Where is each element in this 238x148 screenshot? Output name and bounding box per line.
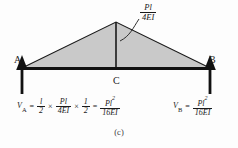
node-label-c: C <box>113 76 120 86</box>
reaction-right-result-den: 16EI <box>193 109 213 117</box>
reaction-left-equation: VA = l 2 × Pl 4EI × 1 2 = Pl2 16EI <box>17 97 120 117</box>
node-label-a: A <box>14 55 21 65</box>
moment-denominator: 4EI <box>140 13 156 22</box>
reaction-left-term1-den: 2 <box>37 107 45 115</box>
reaction-right-subscript: B <box>178 106 182 113</box>
reaction-left-equals: = <box>29 103 36 111</box>
reaction-left-term2: Pl 4EI <box>56 98 72 115</box>
reaction-left-result: Pl2 16EI <box>100 97 120 117</box>
reaction-left-subscript: A <box>22 106 27 113</box>
reaction-left-symbol: VA <box>17 102 27 112</box>
reaction-left-times1: × <box>47 103 54 111</box>
reaction-left-result-den: 16EI <box>100 109 120 117</box>
moment-value-label: Pl 4EI <box>140 3 156 21</box>
reaction-left-result-base: Pl <box>105 99 112 108</box>
reaction-left-row: VA = l 2 × Pl 4EI × 1 2 = Pl2 16EI <box>17 97 120 117</box>
reaction-left-result-exponent: 2 <box>112 95 115 101</box>
reaction-right-result-exponent: 2 <box>205 95 208 101</box>
diagram-canvas <box>0 0 238 148</box>
reaction-right-symbol: VB <box>173 102 182 112</box>
reaction-left-term1: l 2 <box>37 98 45 115</box>
reaction-left-term2-den: 4EI <box>56 107 72 115</box>
node-label-b: B <box>209 55 216 65</box>
reaction-right-result: Pl2 16EI <box>193 97 213 117</box>
reaction-right-result-base: Pl <box>197 99 204 108</box>
reaction-left-equals2: = <box>92 103 99 111</box>
reaction-left-term3: 1 2 <box>82 98 90 115</box>
beam-moment-diagram-figure: A B C Pl 4EI VA = l 2 × Pl 4EI × 1 2 <box>0 0 238 148</box>
reaction-left-times2: × <box>73 103 80 111</box>
reaction-right-equation: VB = Pl2 16EI <box>173 97 212 117</box>
reaction-right-equals: = <box>184 103 191 111</box>
figure-caption: (c) <box>0 128 238 137</box>
moment-fraction: Pl 4EI <box>140 3 156 21</box>
reaction-right-row: VB = Pl2 16EI <box>173 97 212 117</box>
reaction-left-term3-den: 2 <box>82 107 90 115</box>
